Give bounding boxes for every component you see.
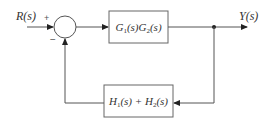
summing-junction [54, 16, 76, 38]
forward-block: G1(s)G2(s) [109, 11, 168, 43]
output-label: Y(s) [239, 9, 258, 23]
plus-sign: + [44, 13, 49, 23]
feedback-block: H1(s) + H2(s) [104, 85, 173, 117]
block-diagram: R(s) + − G1(s)G2(s) Y(s) H1(s) + H2(s) [0, 0, 266, 126]
feedback-path-left [65, 39, 104, 103]
minus-sign: − [50, 34, 56, 45]
input-label: R(s) [15, 9, 36, 23]
feedback-path-right [174, 27, 214, 103]
forward-block-label: G1(s)G2(s) [115, 21, 161, 35]
